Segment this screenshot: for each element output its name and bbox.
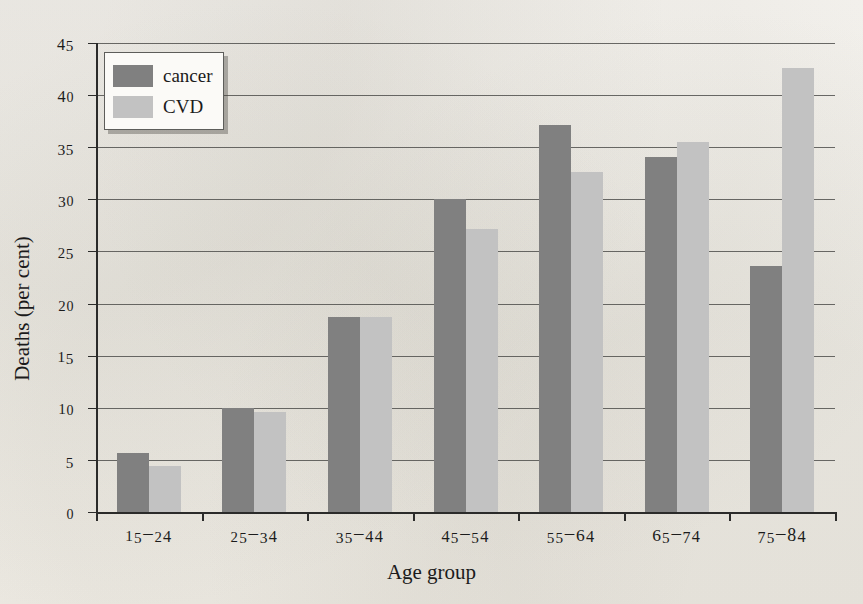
bar-cancer-25-34 xyxy=(222,408,254,512)
bar-cvd-75-84 xyxy=(782,68,814,512)
bar-cancer-65-74 xyxy=(645,157,677,512)
x-tick-mark-2 xyxy=(307,512,309,521)
bar-cvd-15-24 xyxy=(149,466,181,512)
y-tick-mark-40 xyxy=(88,95,96,96)
bar-cvd-35-44 xyxy=(360,317,392,512)
bar-cancer-45-54 xyxy=(434,199,466,512)
x-axis-line xyxy=(96,512,835,514)
y-tick-mark-10 xyxy=(88,408,96,409)
grouped-bar-chart: 051015202530354045 15–2425–3435–4445–545… xyxy=(0,0,863,604)
x-tick-label-25-34: 25–34 xyxy=(231,524,278,546)
bar-cvd-45-54 xyxy=(466,229,498,512)
x-tick-mark-3 xyxy=(413,512,415,521)
y-axis-title: Deaths (per cent) xyxy=(10,159,35,459)
x-tick-label-75-84: 75–84 xyxy=(758,524,807,546)
x-tick-mark-0 xyxy=(96,512,98,521)
y-tick-label-15: 15 xyxy=(58,345,74,367)
y-tick-label-25: 25 xyxy=(58,240,74,262)
x-axis-title: Age group xyxy=(0,560,863,585)
x-tick-label-35-44: 35–44 xyxy=(336,524,384,546)
bar-cancer-55-64 xyxy=(539,125,571,512)
x-tick-mark-5 xyxy=(624,512,626,521)
x-tick-label-15-24: 15–24 xyxy=(125,524,172,546)
y-tick-label-30: 30 xyxy=(58,188,74,210)
y-tick-mark-15 xyxy=(88,356,96,357)
x-tick-mark-4 xyxy=(518,512,520,521)
legend-label-cancer: cancer xyxy=(163,66,213,85)
y-tick-label-5: 5 xyxy=(66,449,74,471)
y-tick-mark-35 xyxy=(88,147,96,148)
y-tick-mark-20 xyxy=(88,304,96,305)
y-tick-mark-25 xyxy=(88,251,96,252)
y-tick-label-10: 10 xyxy=(58,397,74,419)
y-tick-label-40: 40 xyxy=(58,84,74,106)
legend-swatch-cvd-icon xyxy=(113,96,153,118)
legend-swatch-cancer-icon xyxy=(113,65,153,87)
legend-item-cvd: CVD xyxy=(113,93,215,120)
legend-label-cvd: CVD xyxy=(163,97,203,116)
y-tick-mark-0 xyxy=(88,512,96,513)
bar-cvd-55-64 xyxy=(571,172,603,512)
y-tick-label-0: 0 xyxy=(66,501,74,523)
y-tick-label-45: 45 xyxy=(57,32,74,54)
bar-cancer-15-24 xyxy=(117,453,149,512)
bar-cancer-35-44 xyxy=(328,317,360,512)
y-tick-label-20: 20 xyxy=(58,293,74,315)
y-tick-label-35: 35 xyxy=(57,136,74,158)
bar-cvd-25-34 xyxy=(254,412,286,512)
bar-cvd-65-74 xyxy=(677,142,709,512)
bar-cancer-75-84 xyxy=(750,266,782,512)
y-tick-mark-45 xyxy=(88,43,96,44)
x-tick-label-55-64: 55–64 xyxy=(547,524,596,546)
legend-item-cancer: cancer xyxy=(113,62,215,89)
x-tick-mark-1 xyxy=(202,512,204,521)
x-tick-label-65-74: 65–74 xyxy=(652,524,701,546)
chart-legend: cancer CVD xyxy=(104,52,224,130)
y-tick-mark-30 xyxy=(88,199,96,200)
x-tick-label-45-54: 45–54 xyxy=(441,524,489,546)
y-tick-mark-5 xyxy=(88,460,96,461)
x-tick-mark-end xyxy=(835,512,837,521)
x-tick-mark-6 xyxy=(729,512,731,521)
